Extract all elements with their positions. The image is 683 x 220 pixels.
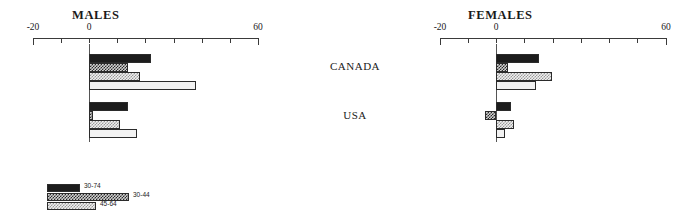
males-usa-bar-65-74 xyxy=(89,129,137,138)
females-tick-30 xyxy=(581,38,582,43)
chart-legend: 30-74 30-44 45-64 xyxy=(47,184,197,214)
group-label-usa: USA xyxy=(343,109,367,121)
males-usa-bar-30-74 xyxy=(89,102,128,111)
females-usa-bar-65-74 xyxy=(496,129,505,138)
females-usa-bar-30-44 xyxy=(485,111,496,120)
legend-label-30-44: 30-44 xyxy=(133,191,150,198)
females-axis-label-max: 60 xyxy=(661,22,671,32)
males-tick-20 xyxy=(145,38,146,43)
males-tick-60 xyxy=(258,38,259,45)
females-usa-bar-30-74 xyxy=(496,102,511,111)
males-tick--20 xyxy=(33,38,34,45)
females-x-axis: -20 0 60 xyxy=(410,38,683,39)
females-canada-bar-65-74 xyxy=(496,81,536,90)
males-tick-0 xyxy=(89,38,90,43)
males-tick-40 xyxy=(202,38,203,43)
females-tick--10 xyxy=(468,38,469,43)
males-chart-panel: MALES -20 0 60 xyxy=(0,0,340,180)
females-canada-bar-45-64 xyxy=(496,72,552,81)
males-axis-label-zero: 0 xyxy=(87,22,92,32)
males-usa-bar-45-64 xyxy=(89,120,120,129)
legend-label-45-64: 45-64 xyxy=(100,200,117,207)
females-axis-label-zero: 0 xyxy=(494,22,499,32)
females-panel-title: FEMALES xyxy=(468,8,533,23)
group-label-canada: CANADA xyxy=(330,60,380,72)
legend-swatch-45-64 xyxy=(47,202,96,210)
males-axis-label-min: -20 xyxy=(27,22,40,32)
females-canada-bar-30-44 xyxy=(496,63,508,72)
males-canada-bar-30-74 xyxy=(89,54,151,63)
females-tick-50 xyxy=(637,38,638,43)
females-tick-40 xyxy=(609,38,610,43)
females-axis-label-min: -20 xyxy=(434,22,447,32)
females-tick-10 xyxy=(524,38,525,43)
females-tick-20 xyxy=(553,38,554,43)
males-canada-bar-65-74 xyxy=(89,81,196,90)
legend-label-30-74: 30-74 xyxy=(84,182,101,189)
males-axis-label-max: 60 xyxy=(253,22,263,32)
females-chart-panel: FEMALES -20 0 60 xyxy=(410,0,683,180)
males-x-axis: -20 0 60 xyxy=(0,38,340,39)
females-usa-bar-45-64 xyxy=(496,120,514,129)
females-tick--20 xyxy=(440,38,441,45)
legend-swatch-30-74 xyxy=(47,184,80,192)
females-canada-bar-30-74 xyxy=(496,54,539,63)
males-tick-10 xyxy=(117,38,118,43)
males-axis-line xyxy=(33,38,259,39)
males-tick--10 xyxy=(61,38,62,43)
females-tick-0 xyxy=(496,38,497,43)
males-usa-bar-30-44 xyxy=(89,111,93,120)
males-tick-30 xyxy=(174,38,175,43)
males-canada-bar-45-64 xyxy=(89,72,140,81)
females-tick-60 xyxy=(666,38,667,45)
males-panel-title: MALES xyxy=(72,8,119,23)
males-tick-50 xyxy=(230,38,231,43)
males-canada-bar-30-44 xyxy=(89,63,128,72)
